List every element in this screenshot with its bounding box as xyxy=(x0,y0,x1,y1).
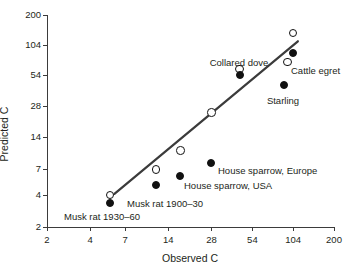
annotation-label: Musk rat 1900–30 xyxy=(127,199,203,209)
data-point-marker xyxy=(152,181,160,189)
annotation-label: Cattle egret xyxy=(291,66,340,76)
data-point-marker xyxy=(176,146,185,155)
annotation-label: Collared dove xyxy=(210,58,269,68)
annotation-label: Starling xyxy=(267,96,299,106)
scatter-plot-figure: 247142854104200 247142854104200 Predicte… xyxy=(0,0,363,269)
annotation-label: House sparrow, Europe xyxy=(218,166,317,176)
data-point-marker xyxy=(236,71,244,79)
annotation-label: House sparrow, USA xyxy=(184,181,272,191)
data-point-marker xyxy=(207,108,216,117)
trend-line xyxy=(0,0,363,269)
data-point-marker xyxy=(152,165,161,174)
annotation-label: Musk rat 1930–60 xyxy=(64,212,140,222)
data-point-marker xyxy=(280,81,288,89)
data-point-marker xyxy=(289,49,297,57)
data-point-marker xyxy=(106,199,114,207)
